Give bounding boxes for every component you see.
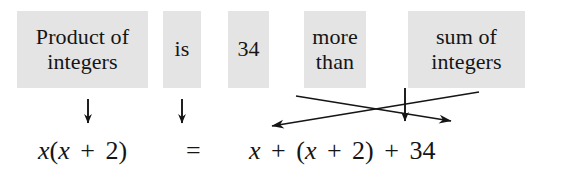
right-expression: x + (x + 2) + 34 xyxy=(249,138,435,164)
phrase-line: integers xyxy=(431,50,501,75)
equals-sign: = xyxy=(186,138,201,164)
phrase-line: more xyxy=(312,25,358,50)
phrase-line: sum of xyxy=(436,25,497,50)
phrase-line: integers xyxy=(47,50,117,75)
phrase-box-thirty-four: 34 xyxy=(228,11,269,88)
phrase-box-product-of-integers: Product of integers xyxy=(17,11,148,88)
phrase-line: is xyxy=(175,37,190,62)
phrase-box-more-than: more than xyxy=(304,11,366,88)
cross-arrow-thirty-four-icon xyxy=(296,96,451,121)
phrase-box-sum-of-integers: sum of integers xyxy=(408,11,525,88)
phrase-line: Product of xyxy=(36,25,129,50)
phrase-box-is: is xyxy=(163,11,201,88)
equation-translation-diagram: Product of integers is 34 more than sum … xyxy=(0,0,570,171)
cross-arrow-sum-of-integers-icon xyxy=(272,92,479,126)
phrase-line: 34 xyxy=(237,37,259,62)
phrase-line: than xyxy=(316,50,354,75)
left-expression: x(x + 2) xyxy=(38,138,127,164)
